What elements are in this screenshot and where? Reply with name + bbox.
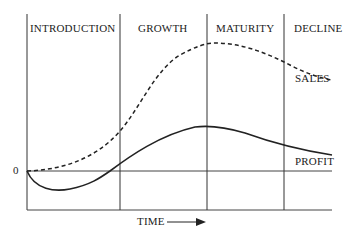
profit-label: PROFIT — [295, 155, 334, 167]
sales-curve — [27, 43, 332, 171]
sales-label: SALES — [295, 72, 330, 84]
profit-curve — [27, 126, 332, 190]
product-life-cycle-diagram: INTRODUCTION GROWTH MATURITY DECLINE SAL… — [0, 0, 360, 238]
stage-label-maturity: MATURITY — [216, 22, 274, 34]
stage-label-decline: DECLINE — [294, 22, 342, 34]
x-axis-label: TIME — [137, 215, 165, 227]
y-zero-label: 0 — [13, 164, 19, 176]
time-arrow-head-icon — [196, 218, 206, 226]
diagram-canvas — [0, 0, 360, 238]
stage-label-growth: GROWTH — [138, 22, 187, 34]
stage-label-introduction: INTRODUCTION — [30, 22, 116, 34]
